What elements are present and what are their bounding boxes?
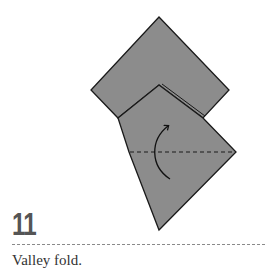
front-paper-flap <box>118 85 236 230</box>
step-divider <box>12 244 265 245</box>
origami-diagram <box>0 0 265 278</box>
step-number: 11 <box>12 209 36 240</box>
step-instruction: Valley fold. <box>12 251 82 269</box>
